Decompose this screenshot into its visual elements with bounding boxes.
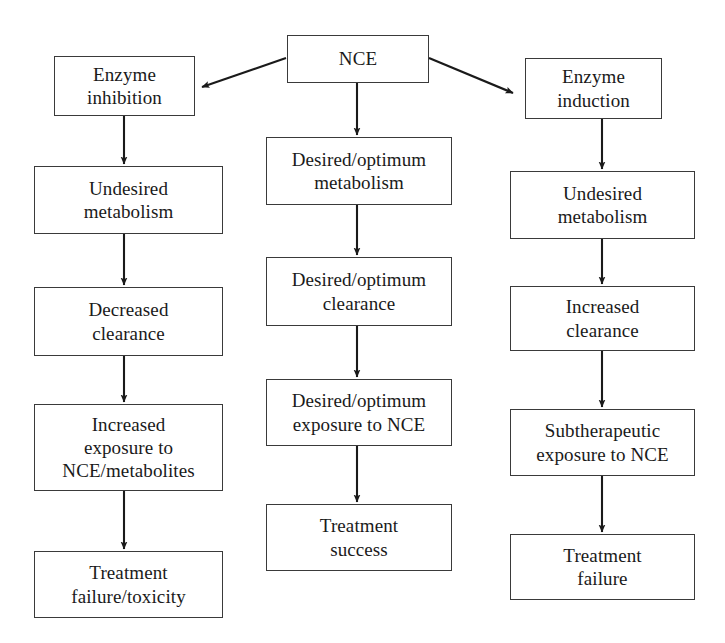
node-decreased-clearance-label: Decreased clearance bbox=[39, 298, 218, 344]
node-decreased-clearance[interactable]: Decreased clearance bbox=[34, 287, 223, 356]
node-treatment-failure-toxicity[interactable]: Treatment failure/toxicity bbox=[34, 551, 223, 618]
node-desired-clearance[interactable]: Desired/optimum clearance bbox=[266, 257, 452, 326]
node-treatment-failure[interactable]: Treatment failure bbox=[510, 534, 695, 600]
node-nce-label: NCE bbox=[292, 47, 424, 70]
node-undesired-metabolism-right-label: Undesired metabolism bbox=[515, 182, 690, 228]
node-desired-metabolism-label: Desired/optimum metabolism bbox=[271, 148, 447, 194]
node-subtherapeutic-exposure-label: Subtherapeutic exposure to NCE bbox=[515, 419, 690, 465]
node-undesired-metabolism-right[interactable]: Undesired metabolism bbox=[510, 171, 695, 239]
node-treatment-failure-toxicity-label: Treatment failure/toxicity bbox=[39, 561, 218, 607]
edge-nce-to-enzyme-induction bbox=[429, 58, 513, 93]
node-enzyme-induction[interactable]: Enzyme induction bbox=[525, 58, 662, 119]
node-enzyme-inhibition-label: Enzyme inhibition bbox=[59, 63, 190, 109]
node-desired-clearance-label: Desired/optimum clearance bbox=[271, 268, 447, 314]
node-treatment-success-label: Treatment success bbox=[271, 514, 447, 560]
node-treatment-success[interactable]: Treatment success bbox=[266, 504, 452, 571]
node-desired-exposure-label: Desired/optimum exposure to NCE bbox=[271, 389, 447, 435]
flowchart-canvas: NCE Desired/optimum metabolism Desired/o… bbox=[0, 0, 725, 643]
node-enzyme-inhibition[interactable]: Enzyme inhibition bbox=[54, 56, 195, 116]
node-treatment-failure-label: Treatment failure bbox=[515, 544, 690, 590]
edge-nce-to-enzyme-inhibition bbox=[202, 58, 286, 87]
node-increased-exposure-label: Increased exposure to NCE/metabolites bbox=[39, 413, 218, 483]
node-undesired-metabolism-left-label: Undesired metabolism bbox=[39, 177, 218, 223]
node-increased-clearance-label: Increased clearance bbox=[515, 295, 690, 341]
node-undesired-metabolism-left[interactable]: Undesired metabolism bbox=[34, 166, 223, 234]
node-nce[interactable]: NCE bbox=[287, 35, 429, 83]
node-increased-clearance[interactable]: Increased clearance bbox=[510, 286, 695, 351]
node-desired-exposure[interactable]: Desired/optimum exposure to NCE bbox=[266, 379, 452, 446]
node-enzyme-induction-label: Enzyme induction bbox=[530, 65, 657, 111]
node-desired-metabolism[interactable]: Desired/optimum metabolism bbox=[266, 137, 452, 205]
node-subtherapeutic-exposure[interactable]: Subtherapeutic exposure to NCE bbox=[510, 409, 695, 476]
node-increased-exposure[interactable]: Increased exposure to NCE/metabolites bbox=[34, 404, 223, 491]
